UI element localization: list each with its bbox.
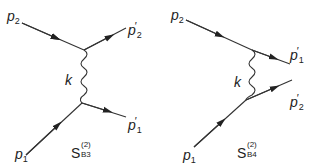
photon-propagator-k bbox=[246, 50, 255, 100]
diagram-name-b4: S (2) B4 bbox=[237, 146, 246, 160]
label-k-b4: k bbox=[234, 75, 241, 89]
label-p2prime-out-b3: p′2 bbox=[128, 21, 142, 40]
label-p1prime-out-b3: p′1 bbox=[128, 116, 142, 135]
diagram-name-b3: S (2) B3 bbox=[71, 146, 80, 160]
label-p1-in-b4: p1 bbox=[183, 148, 196, 165]
label-p2prime-out-b4: p′2 bbox=[290, 93, 304, 112]
label-p2-in-b4: p2 bbox=[171, 8, 184, 25]
photon-propagator-k bbox=[80, 50, 87, 103]
diagram-b3 bbox=[22, 23, 126, 155]
label-p2-in-b3: p2 bbox=[7, 9, 20, 26]
label-k-b3: k bbox=[65, 73, 72, 87]
label-p1-in-b3: p1 bbox=[15, 147, 28, 164]
feynman-diagrams-canvas bbox=[0, 0, 309, 168]
label-p1prime-out-b4: p′1 bbox=[290, 46, 304, 65]
